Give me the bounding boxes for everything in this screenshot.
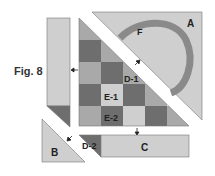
- label-b: B: [51, 147, 58, 158]
- label-e2: E-2: [104, 113, 118, 123]
- arrow-left-icon: [71, 68, 78, 72]
- label-d2: D-2: [82, 141, 97, 151]
- arrow-down-left-icon: [67, 136, 72, 141]
- label-a: A: [187, 18, 194, 29]
- label-c: C: [141, 142, 148, 153]
- label-e1: E-1: [104, 92, 118, 102]
- bottom-strip: D-2 C: [79, 135, 189, 157]
- label-f: F: [137, 27, 143, 37]
- label-d1: D-1: [124, 74, 139, 84]
- left-strip: [47, 18, 70, 127]
- quilt-block-diagram: A F: [0, 0, 215, 176]
- arrow-down-icon: [135, 128, 139, 135]
- piece-b: B: [42, 119, 85, 162]
- arrow-up-right-icon: [135, 60, 140, 65]
